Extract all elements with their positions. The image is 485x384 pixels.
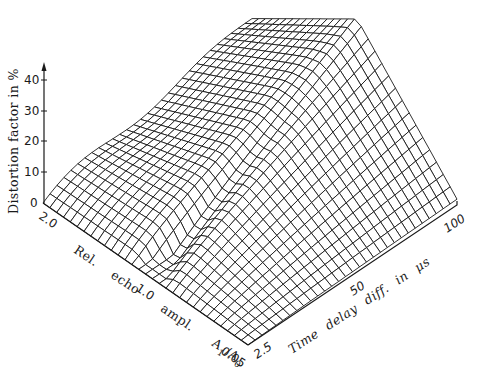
z-tick-30: 30 bbox=[24, 104, 39, 118]
z-axis-title: Distortion factor in % bbox=[6, 68, 21, 214]
x-tick-100: 100 bbox=[441, 211, 468, 235]
z-axis: 40 30 20 10 0 Distortion factor in % bbox=[6, 62, 47, 214]
z-tick-0: 0 bbox=[30, 196, 38, 210]
x-tick-2.5: 2.5 bbox=[251, 339, 275, 361]
z-tick-10: 10 bbox=[24, 165, 39, 179]
z-axis-arrow-icon bbox=[42, 62, 47, 71]
z-tick-40: 40 bbox=[24, 73, 39, 87]
wireframe-surface bbox=[43, 19, 457, 345]
surface-plot: 40 30 20 10 0 Distortion factor in % 2.0… bbox=[0, 0, 485, 384]
z-tick-20: 20 bbox=[24, 134, 39, 148]
